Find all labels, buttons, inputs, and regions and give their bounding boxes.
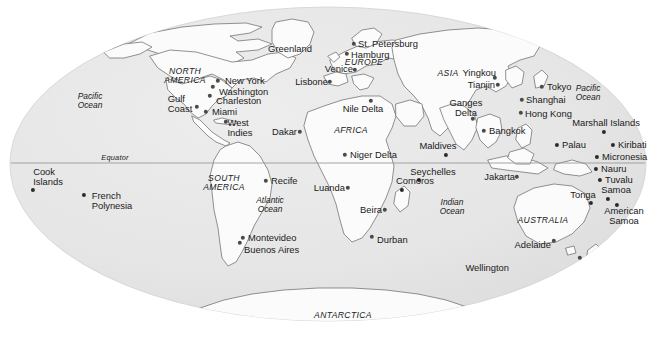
island-label-marshall-islands: Marshall Islands (572, 118, 640, 128)
world-map-svg (0, 0, 657, 330)
island-label-american-samoa: American Samoa (604, 206, 644, 226)
island-label-nauru: Nauru (601, 164, 627, 174)
urban-label-miami: Miami (212, 107, 237, 117)
region-label-asia: ASIA (438, 69, 459, 78)
island-label-palau: Palau (562, 140, 586, 150)
island-label-micronesia: Micronesia (602, 152, 647, 162)
tasmania-landmass (566, 246, 576, 255)
urban-label-lisbone: Lisbone (295, 77, 328, 87)
urban-label-niger-delta: Niger Delta (350, 150, 397, 160)
label-greenland: Greenland (268, 44, 312, 54)
urban-label-recife: Recife (271, 176, 298, 186)
region-label-south-america: SOUTH AMERICA (203, 174, 245, 192)
urban-label-west-indies: West Indies (227, 118, 252, 138)
ocean-label-pacific-west: Pacific Ocean (78, 92, 103, 110)
region-label-north-america: NORTH AMERICA (164, 67, 206, 85)
world-map-figure: NORTH AMERICA SOUTH AMERICA EUROPE AFRIC… (0, 0, 657, 360)
urban-label-adelaide: Adelaide (515, 240, 552, 250)
globe-container: NORTH AMERICA SOUTH AMERICA EUROPE AFRIC… (0, 0, 657, 330)
urban-label-durban: Durban (377, 235, 408, 245)
urban-label-jakarta: Jakarta (484, 172, 515, 182)
urban-label-hong-kong: Hong Kong (525, 109, 572, 119)
island-label-samoa: Samoa (601, 185, 631, 195)
urban-label-tianjin: Tianjin (468, 80, 495, 90)
urban-label-hamburg: Hamburg (351, 50, 390, 60)
region-label-africa: AFRICA (334, 126, 368, 135)
equator-label: Equator (101, 154, 128, 162)
urban-label-ganges-delta: Ganges Delta (450, 98, 483, 118)
urban-label-venice: Venice (325, 64, 353, 74)
urban-label-beira: Beira (360, 205, 382, 215)
urban-label-nile-delta: Nile Delta (343, 104, 384, 114)
urban-label-buenos-aires: Buenos Aires (244, 245, 299, 255)
urban-label-yingkou: Yingkou (462, 68, 496, 78)
urban-label-bangkok: Bangkok (489, 126, 525, 136)
island-label-tonga: Tonga (570, 190, 596, 200)
ocean-label-atlantic: Atlantic Ocean (256, 196, 283, 214)
region-label-australia: AUSTRALIA (518, 216, 569, 225)
region-label-antarctica: ANTARCTICA (314, 311, 372, 320)
ocean-label-indian: Indian Ocean (440, 198, 465, 216)
urban-label-charleston: Charleston (216, 96, 261, 106)
urban-label-st-petersburg: St. Petersburg (358, 39, 418, 49)
island-label-cook-islands: Cook Islands (33, 167, 63, 187)
urban-label-dakar: Dakar (272, 127, 297, 137)
urban-label-new-york: New York (225, 76, 265, 86)
urban-label-luanda: Luanda (314, 183, 345, 193)
island-label-comoros: Comoros (396, 176, 434, 186)
urban-label-gulf-coast: Gulf Coast (168, 94, 193, 114)
ocean-label-pacific-east: Pacific Ocean (576, 84, 601, 102)
island-label-kiribati: Kiribati (618, 140, 647, 150)
urban-label-montevideo: Montevideo (248, 233, 296, 243)
urban-label-wellington: Wellington (465, 263, 509, 273)
island-label-maldives: Maldives (420, 141, 457, 151)
map-legend: Major urban regions at risk Islands at r… (0, 330, 657, 360)
island-label-french-polynesia: French Polynesia (92, 191, 133, 211)
urban-label-tokyo: Tokyo (547, 82, 572, 92)
urban-label-shanghai: Shanghai (526, 95, 566, 105)
